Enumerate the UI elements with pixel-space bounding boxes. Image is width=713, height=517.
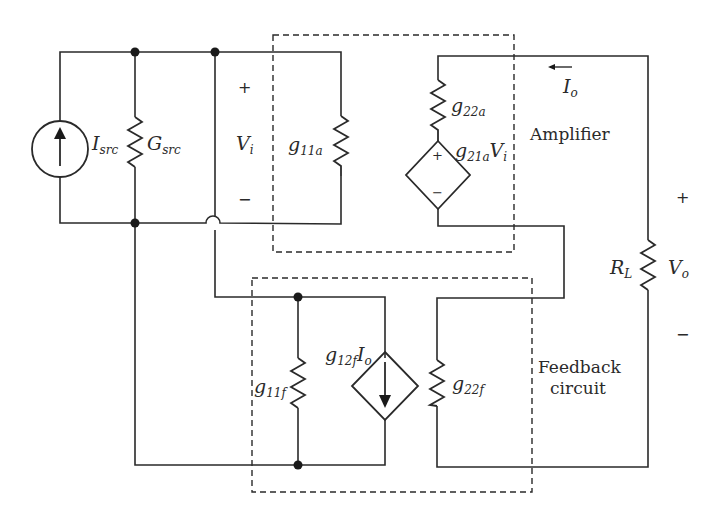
gsrc-label: Gsrc [147, 132, 181, 154]
node-dot [211, 48, 220, 57]
vi-minus-sign: − [238, 190, 251, 209]
node-dot [131, 48, 140, 57]
g22f-label: g22f [452, 372, 484, 394]
g11f-label: g11f [254, 375, 286, 397]
g11a-resistor-icon [334, 116, 348, 176]
io-label: Io [563, 75, 578, 97]
g12f-io-label: g12fIo [325, 343, 372, 365]
input-bottom-wire [60, 176, 341, 224]
vo-plus-sign: + [676, 188, 689, 207]
vi-label: Vi [236, 132, 254, 154]
g11f-resistor-icon [291, 358, 305, 408]
input-top-wire [60, 52, 341, 121]
vo-label: Vo [668, 256, 689, 278]
vo-minus-sign: − [676, 325, 689, 344]
node-dot [294, 461, 303, 470]
io-arrowhead [548, 64, 555, 70]
g22f-resistor-icon [430, 360, 444, 406]
arrow-up-icon [54, 127, 66, 139]
node-dot [131, 219, 140, 228]
vcvs-plus-sign: + [432, 148, 443, 163]
feedback-block-label: Feedback circuit [538, 357, 618, 399]
gsrc-resistor-icon [128, 117, 142, 167]
rl-resistor-icon [641, 240, 655, 290]
feedback-label-line2: circuit [538, 378, 618, 399]
amplifier-feedback-link-wire [437, 209, 564, 360]
g11a-label: g11a [288, 133, 323, 155]
amplifier-block-label: Amplifier [530, 124, 610, 145]
g22a-label: g22a [451, 94, 486, 116]
arrow-down-icon [379, 395, 391, 408]
vi-plus-sign: + [238, 78, 251, 97]
vcvs-minus-sign: − [432, 185, 443, 200]
g22a-resistor-icon [431, 80, 445, 141]
node-dot [294, 293, 303, 302]
circuit-diagram [0, 0, 713, 517]
g21a-vi-label: g21aVi [455, 139, 507, 161]
rl-label: RL [610, 256, 632, 278]
isrc-label: Isrc [92, 132, 118, 154]
feedback-label-line1: Feedback [538, 357, 618, 378]
